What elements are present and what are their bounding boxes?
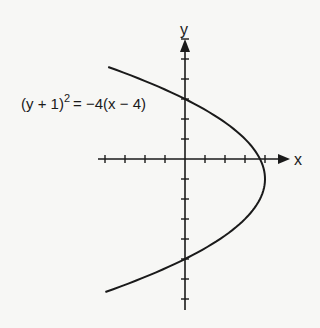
y-axis-arrow-icon (180, 39, 190, 52)
x-axis-label: x (294, 151, 302, 168)
x-axis: x (98, 151, 302, 168)
equation-label: (y + 1)2= −4(x − 4) (21, 92, 146, 112)
equation-rhs: = −4(x − 4) (73, 95, 146, 112)
y-axis: y (180, 21, 190, 310)
equation-lhs-base: (y + 1) (21, 95, 64, 112)
y-axis-label: y (180, 21, 188, 38)
parabola-diagram: x y (y + 1)2= −4(x − 4) (0, 0, 320, 328)
x-axis-arrow-icon (278, 154, 290, 164)
equation-exponent: 2 (64, 92, 70, 104)
